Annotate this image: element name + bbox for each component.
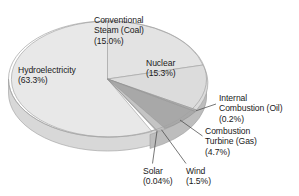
slice-label-line: Wind: [186, 166, 211, 176]
slice-value: (15.3%): [146, 68, 176, 78]
slice-label-line: Nuclear: [146, 58, 176, 68]
slice-label-line: Conventional: [94, 15, 144, 25]
slice-label-nuclear: Nuclear (15.3%): [146, 58, 176, 79]
slice-value: (0.2%): [219, 114, 283, 124]
slice-label-line: Turbine (Gas): [205, 136, 257, 146]
slice-value: (4.7%): [205, 147, 257, 157]
slice-value: (15.0%): [94, 36, 144, 46]
slice-label-hydroelectricity: Hydroelectricity (63.3%): [18, 65, 76, 86]
slice-label-conventional-steam-coal: Conventional Steam (Coal) (15.0%): [94, 15, 144, 46]
slice-label-line: Solar: [143, 166, 173, 176]
slice-value: (1.5%): [186, 176, 211, 186]
slice-label-line: Steam (Coal): [94, 25, 144, 35]
slice-value: (63.3%): [18, 75, 76, 85]
slice-value: (0.04%): [143, 176, 173, 186]
slice-label-line: Combustion (Oil): [219, 103, 283, 113]
slice-label-internal-combustion-oil: Internal Combustion (Oil) (0.2%): [219, 93, 283, 124]
slice-label-line: Combustion: [205, 126, 257, 136]
slice-label-combustion-turbine-gas: Combustion Turbine (Gas) (4.7%): [205, 126, 257, 157]
slice-label-line: Internal: [219, 93, 283, 103]
slice-label-wind: Wind (1.5%): [186, 166, 211, 187]
slice-label-solar: Solar (0.04%): [143, 166, 173, 187]
pie-chart-figure: Conventional Steam (Coal) (15.0%) Hydroe…: [0, 0, 299, 196]
slice-label-line: Hydroelectricity: [18, 65, 76, 75]
